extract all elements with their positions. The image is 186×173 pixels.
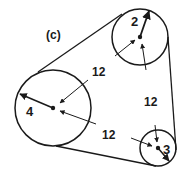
belt-segment-2-4 bbox=[56, 146, 156, 166]
dim-4-3-arrow-end bbox=[115, 40, 135, 56]
pulley-3-radius-arrow bbox=[140, 11, 149, 37]
pulley-3: 2 bbox=[112, 9, 168, 70]
pulley-3-label: 2 bbox=[131, 14, 138, 29]
dim-3-2-arrow bbox=[142, 44, 146, 70]
belt-segment-4-3 bbox=[38, 14, 122, 72]
dim-3-2-arrow-end bbox=[155, 125, 157, 142]
dim-4-2-label: 12 bbox=[102, 128, 116, 142]
dim-4-3-label: 12 bbox=[92, 65, 106, 79]
pulley-2: 3 bbox=[131, 125, 176, 166]
belt-pulley-diagram: 4 2 3 (c) 12 12 12 bbox=[0, 0, 186, 173]
dim-3-2-label: 12 bbox=[144, 95, 158, 109]
dim-4-3-arrow bbox=[60, 80, 88, 103]
figure-label: (c) bbox=[46, 28, 61, 42]
pulley-4: 4 bbox=[15, 70, 96, 146]
pulley-4-radius-arrow bbox=[20, 94, 53, 108]
pulley-4-label: 4 bbox=[26, 104, 34, 119]
pulley-2-label: 3 bbox=[163, 142, 170, 157]
